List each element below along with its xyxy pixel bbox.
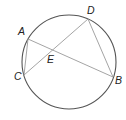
label-b: B	[115, 74, 122, 86]
segment-ab	[28, 39, 113, 77]
label-c: C	[14, 70, 22, 82]
circle	[22, 15, 116, 109]
segment-cd	[24, 19, 88, 75]
circle-diagram: A B C D E	[0, 0, 126, 120]
label-a: A	[17, 25, 25, 37]
label-e: E	[47, 53, 55, 65]
label-d: D	[87, 4, 95, 16]
